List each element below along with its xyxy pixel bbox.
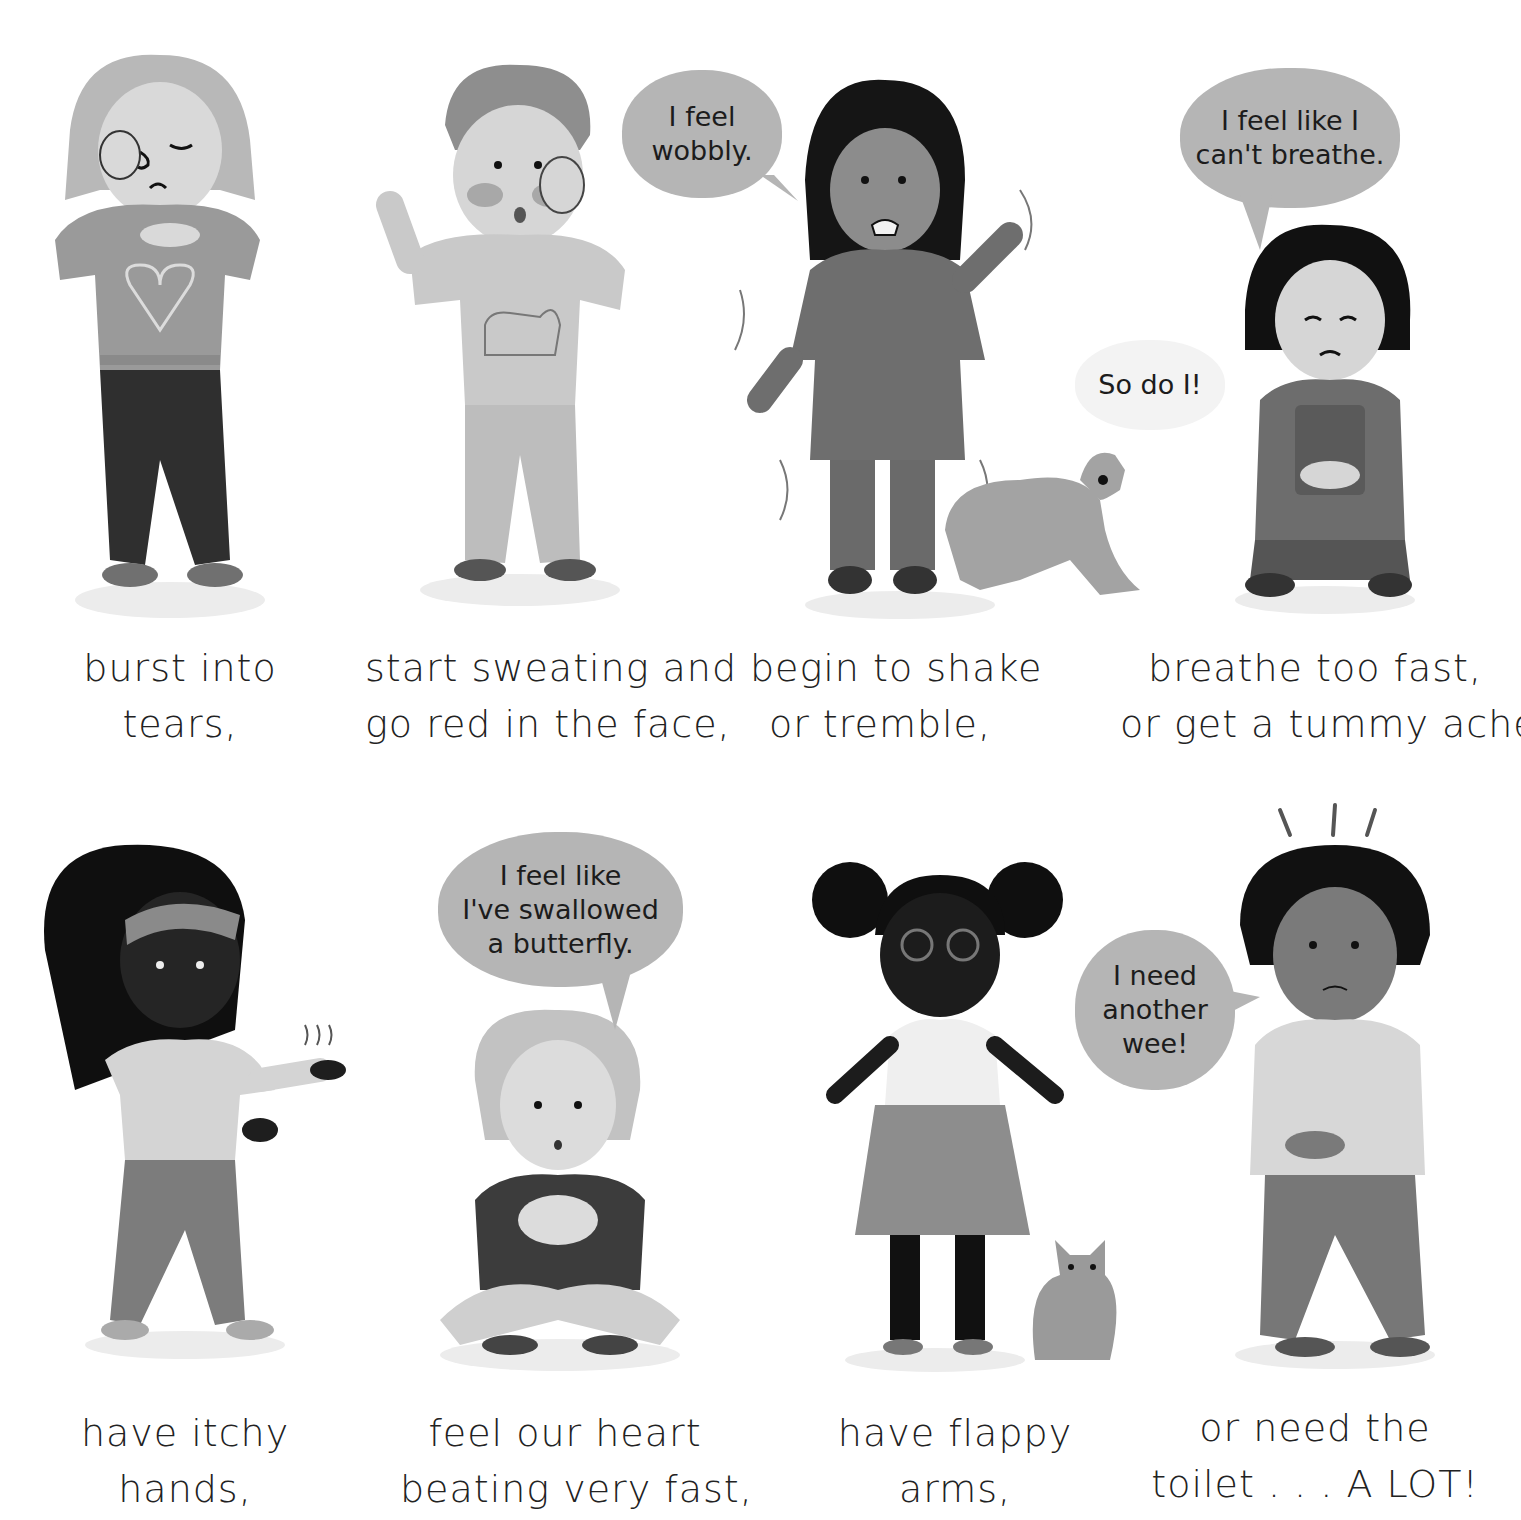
caption-flappy: have flappy arms,	[835, 1405, 1075, 1517]
speech-line: another	[1102, 993, 1208, 1027]
caption-line: tears,	[70, 696, 290, 752]
panel-toilet	[1225, 805, 1445, 1375]
speech-bubble-another-wee: I need another wee!	[1075, 930, 1235, 1090]
caption-line: begin to shake	[750, 640, 1010, 696]
crying-child-illustration	[20, 40, 300, 620]
speech-bubble-tail	[1240, 195, 1280, 255]
itchy-hands-girl-illustration	[35, 830, 355, 1360]
panel-breathing	[1225, 220, 1425, 615]
caption-sweating: start sweating and go red in the face,	[365, 640, 705, 752]
caption-line: toilet . . . A LOT!	[1150, 1456, 1480, 1512]
caption-shaking: begin to shake or tremble,	[750, 640, 1010, 752]
caption-line: breathe too fast,	[1120, 640, 1510, 696]
caption-line: or need the	[1150, 1400, 1480, 1456]
speech-line: I feel	[669, 100, 736, 134]
panel-shaking	[720, 60, 1190, 620]
caption-line: or tremble,	[750, 696, 1010, 752]
caption-line: start sweating and	[365, 640, 705, 696]
toilet-boy-illustration	[1225, 805, 1445, 1375]
panel-itchy	[35, 830, 355, 1360]
speech-line: can't breathe.	[1196, 138, 1385, 172]
speech-line: wobbly.	[651, 134, 752, 168]
speech-bubble-tail	[600, 975, 640, 1035]
caption-itchy: have itchy hands,	[70, 1405, 300, 1517]
speech-line: So do I!	[1098, 368, 1201, 402]
speech-line: a butterfly.	[488, 927, 634, 961]
caption-line: have itchy	[70, 1405, 300, 1461]
caption-breathing: breathe too fast, or get a tummy ache,	[1120, 640, 1510, 752]
speech-bubble-so-do-i: So do I!	[1075, 340, 1225, 430]
caption-line: go red in the face,	[365, 696, 705, 752]
speech-line: I feel like I	[1221, 104, 1359, 138]
speech-bubble-tail	[760, 175, 800, 205]
caption-heart: feel our heart beating very fast,	[400, 1405, 730, 1517]
seated-child-illustration	[430, 1000, 690, 1380]
panel-crying	[20, 40, 300, 620]
flappy-arms-girl-illustration	[805, 855, 1145, 1375]
kneeling-girl-illustration	[1225, 220, 1425, 615]
speech-line: I need	[1113, 959, 1197, 993]
speech-bubble-wobbly: I feel wobbly.	[622, 70, 782, 198]
caption-line: hands,	[70, 1461, 300, 1517]
caption-line: arms,	[835, 1461, 1075, 1517]
caption-line: have flappy	[835, 1405, 1075, 1461]
speech-bubble-butterfly: I feel like I've swallowed a butterfly.	[438, 832, 683, 987]
speech-line: wee!	[1122, 1027, 1188, 1061]
speech-line: I've swallowed	[462, 893, 659, 927]
caption-line: or get a tummy ache,	[1120, 696, 1510, 752]
cat-illustration	[1033, 1240, 1117, 1360]
panel-flappy	[805, 855, 1145, 1375]
speech-line: I feel like	[500, 859, 622, 893]
caption-crying: burst into tears,	[70, 640, 290, 752]
panel-heart	[430, 1000, 690, 1380]
shaking-girl-illustration	[720, 60, 1190, 620]
panel-sweating	[370, 55, 650, 615]
speech-bubble-cant-breathe: I feel like I can't breathe.	[1180, 68, 1400, 208]
sweating-child-illustration	[370, 55, 650, 615]
caption-line: burst into	[70, 640, 290, 696]
speech-bubble-tail	[1225, 985, 1265, 1025]
caption-line: beating very fast,	[400, 1461, 730, 1517]
caption-line: feel our heart	[400, 1405, 730, 1461]
caption-toilet: or need the toilet . . . A LOT!	[1150, 1400, 1480, 1512]
